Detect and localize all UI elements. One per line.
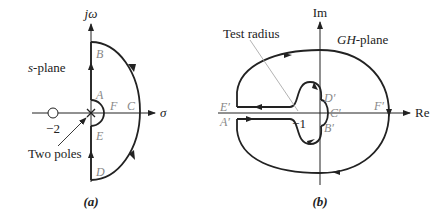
point-e-prime-label: E′ (219, 100, 230, 114)
inner-contour-lower (237, 119, 321, 144)
sigma-axis-label: σ (160, 105, 167, 120)
test-radius-label: Test radius (223, 26, 280, 41)
minus-one-label: −1 (292, 116, 306, 131)
test-radius-line (250, 40, 298, 111)
zero-marker (48, 108, 58, 118)
inner-contour-upper (237, 82, 321, 107)
zero-value-label: −2 (46, 121, 60, 136)
point-f-label: F (109, 99, 118, 113)
s-plane-label: s-plane (28, 60, 66, 75)
point-c-prime-label: C′ (330, 106, 341, 120)
point-f-prime-label: F′ (373, 99, 384, 113)
panel-a-s-plane: jω σ s-plane −2 Two poles B A F C E D (a… (28, 6, 167, 209)
im-axis-label: Im (313, 5, 327, 20)
arrow-right-icon (246, 116, 254, 122)
point-d-label: D (95, 165, 105, 179)
arrow-up-icon (88, 150, 94, 158)
arrow-up-icon (88, 62, 94, 70)
caption-b: (b) (312, 194, 327, 209)
two-poles-label: Two poles (28, 146, 82, 161)
re-axis-label: Re (415, 105, 430, 120)
nyquist-diagram: jω σ s-plane −2 Two poles B A F C E D (a… (0, 0, 445, 217)
jw-axis-label: jω (83, 6, 98, 21)
point-b-label: B (96, 47, 104, 61)
arrow-left-icon (254, 104, 262, 110)
point-a-prime-label: A′ (219, 115, 230, 129)
poles-pointer (58, 118, 86, 146)
panel-b-gh-plane: Im Re GH-plane Test radius −1 E′ A′ D′ C… (218, 5, 430, 209)
point-b-prime-label: B′ (324, 121, 334, 135)
point-e-label: E (95, 129, 104, 143)
point-c-label: C (127, 99, 136, 113)
caption-a: (a) (83, 194, 98, 209)
arrow-right-icon (284, 53, 292, 58)
point-a-label: A (95, 88, 104, 102)
gh-plane-label: GH-plane (337, 32, 388, 47)
point-d-prime-label: D′ (323, 91, 336, 105)
